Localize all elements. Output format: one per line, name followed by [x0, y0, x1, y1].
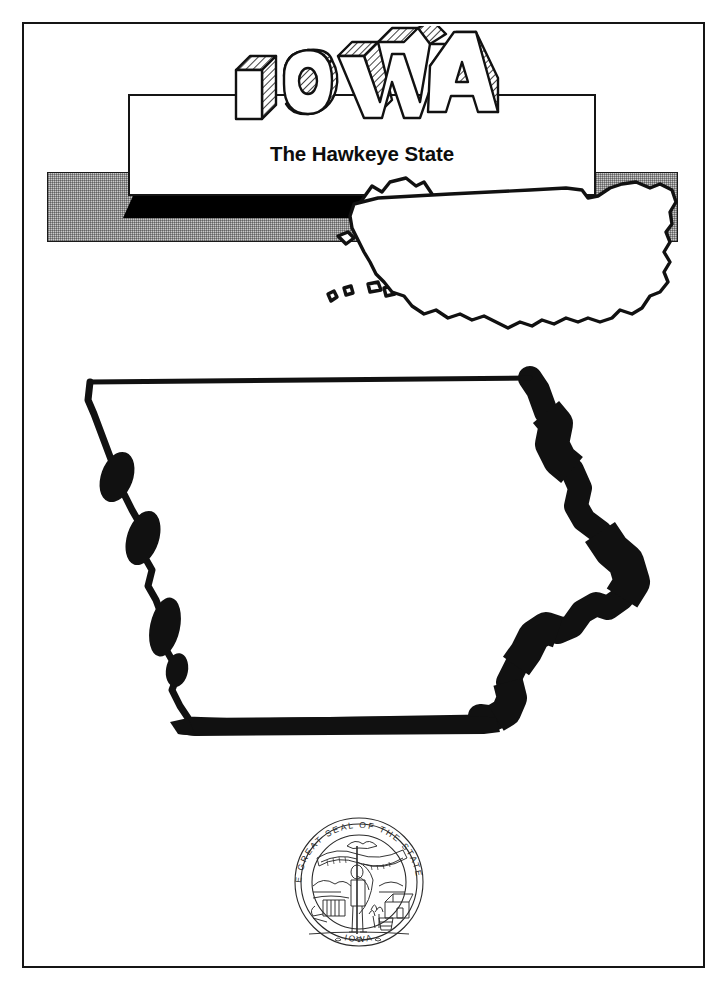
svg-text:THE GREAT SEAL OF THE STATE OF: THE GREAT SEAL OF THE STATE OF — [283, 806, 425, 883]
seal-legend-text: THE GREAT SEAL OF THE STATE OF IOWA — [283, 806, 435, 809]
svg-text:IOWA: IOWA — [344, 932, 375, 944]
iowa-state-outline — [60, 360, 680, 790]
state-seal: THE GREAT SEAL OF THE STATE OF IOWA — [283, 806, 435, 954]
state-fact-page: The Hawkeye State — [0, 0, 728, 990]
us-locator-map — [320, 168, 692, 333]
south-border-shadow — [178, 716, 500, 736]
state-tagline: The Hawkeye State — [128, 142, 596, 166]
contiguous-us — [350, 182, 676, 328]
header-area: The Hawkeye State — [0, 0, 728, 350]
state-name-wordmark — [232, 26, 502, 126]
aleutian-islands — [338, 232, 354, 244]
